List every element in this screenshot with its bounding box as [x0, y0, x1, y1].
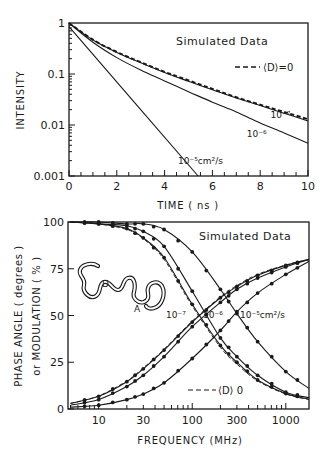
data-point	[111, 401, 115, 405]
top-legend: ⟨D⟩=0	[235, 62, 293, 73]
data-point	[227, 290, 231, 294]
data-point	[219, 296, 223, 300]
data-point	[176, 279, 180, 283]
data-point	[295, 261, 299, 265]
data-point	[162, 355, 166, 359]
top-curve-labels: 10⁻⁷10⁻⁶10⁻⁵cm²/s	[178, 110, 291, 166]
decay-curve	[69, 27, 198, 176]
data-point	[162, 348, 166, 352]
data-point	[219, 336, 223, 340]
x-tick-label: 6	[209, 180, 216, 193]
data-point	[204, 269, 208, 273]
y-tick-label: 0	[57, 403, 64, 416]
x-tick-label: 10	[92, 414, 106, 427]
curve-label: 10⁻⁵cm²/s	[240, 310, 285, 320]
curve-label: 10⁻⁶	[247, 129, 267, 139]
data-point	[152, 246, 156, 250]
bottom-y-axis-label-line2: or MODULATION ( % )	[31, 256, 42, 375]
x-tick-label: 4	[161, 180, 168, 193]
data-point	[152, 364, 156, 368]
curve-label: 10⁻⁵cm²/s	[178, 156, 223, 166]
top-axis-ticks: 024681010.10.010.001	[34, 17, 316, 193]
data-point	[190, 250, 194, 254]
data-point	[125, 385, 129, 389]
data-point	[219, 344, 223, 348]
data-point	[219, 329, 223, 333]
x-tick-label: 10	[301, 180, 315, 193]
data-point	[295, 378, 299, 382]
phase-modulation-chart: 103010030010000255075100 Simulated Data …	[13, 216, 309, 446]
data-point	[133, 379, 137, 383]
data-point	[256, 276, 260, 280]
data-point	[176, 267, 180, 271]
data-point	[245, 326, 249, 330]
x-tick-label: 30	[136, 414, 150, 427]
data-point	[162, 244, 166, 248]
figure: 024681010.10.010.001 Simulated Data ⟨D⟩=…	[0, 0, 326, 458]
data-point	[97, 394, 101, 398]
x-tick-label: 1000	[272, 414, 300, 427]
curve-label: 10⁻⁶	[203, 310, 223, 320]
data-point	[162, 228, 166, 232]
data-point	[176, 340, 180, 344]
y-tick-label: 0.001	[34, 170, 66, 183]
acceptor-label: A	[134, 304, 141, 314]
data-point	[204, 323, 208, 327]
data-point	[270, 355, 274, 359]
data-point	[133, 227, 137, 231]
data-point	[284, 265, 288, 269]
data-point	[190, 320, 194, 324]
data-point	[152, 225, 156, 229]
data-point	[176, 369, 180, 373]
data-point	[141, 373, 145, 377]
bottom-curve-labels: 10⁻⁷10⁻⁶10⁻⁵cm²/s	[166, 310, 285, 320]
data-point	[295, 266, 299, 270]
data-point	[125, 398, 129, 402]
data-point	[227, 294, 231, 298]
data-point	[141, 236, 145, 240]
data-point	[227, 300, 231, 304]
data-point	[270, 282, 274, 286]
data-point	[219, 287, 223, 291]
top-y-axis-label: INTENSITY	[15, 70, 26, 129]
data-point	[133, 373, 137, 377]
data-point	[141, 367, 145, 371]
data-point	[284, 370, 288, 374]
data-point	[83, 401, 87, 405]
data-point	[227, 319, 231, 323]
data-point	[152, 358, 156, 362]
y-tick-label: 0.1	[48, 68, 66, 81]
data-point	[295, 393, 299, 397]
data-point	[245, 364, 249, 368]
bottom-x-axis-label: FREQUENCY (MHz)	[137, 435, 242, 446]
data-point	[97, 398, 101, 402]
data-point	[204, 343, 208, 347]
data-point	[190, 289, 194, 293]
curve-label: 10⁻⁷	[271, 110, 291, 120]
data-point	[133, 231, 137, 235]
data-point	[256, 340, 260, 344]
modulation-curve	[71, 222, 310, 389]
data-point	[152, 237, 156, 241]
data-point	[270, 271, 274, 275]
x-tick-label: 2	[113, 180, 120, 193]
data-point	[190, 302, 194, 306]
data-point	[235, 360, 239, 364]
data-point	[270, 382, 274, 386]
y-tick-label: 75	[50, 263, 64, 276]
bottom-y-axis-label-line1: PHASE ANGLE ( degrees )	[13, 245, 24, 387]
y-tick-label: 50	[50, 310, 64, 323]
data-point	[245, 282, 249, 286]
top-legend-label: ⟨D⟩=0	[263, 62, 293, 73]
y-tick-label: 0.01	[41, 119, 66, 132]
data-point	[284, 272, 288, 276]
bottom-axis-ticks: 103010030010000255075100	[43, 216, 300, 427]
data-point	[235, 312, 239, 316]
x-tick-label: 0	[66, 180, 73, 193]
data-point	[227, 352, 231, 356]
data-point	[152, 387, 156, 391]
data-point	[245, 369, 249, 373]
data-point	[190, 357, 194, 361]
data-point	[190, 325, 194, 329]
data-point	[125, 380, 129, 384]
